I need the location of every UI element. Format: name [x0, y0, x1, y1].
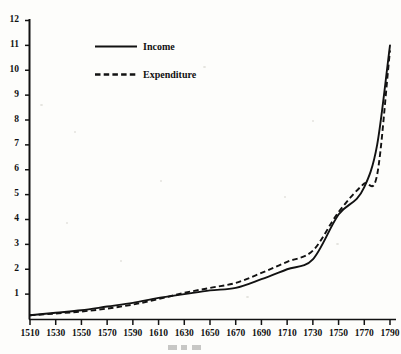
y-axis-tick-label: 11 — [3, 39, 19, 49]
x-axis-tick-label: 1790 — [375, 328, 401, 338]
y-axis-tick-label: 2 — [3, 263, 19, 273]
y-axis-tick-label: 3 — [3, 238, 19, 248]
y-axis-tick-label: 10 — [3, 64, 19, 74]
expenditure-line — [30, 50, 390, 315]
y-axis-tick-label: 6 — [3, 163, 19, 173]
axis-lines — [29, 19, 396, 320]
y-axis-tick-label: 7 — [3, 138, 19, 148]
y-axis-tick-label: 4 — [3, 213, 19, 223]
plot-canvas — [0, 0, 401, 354]
income-line — [30, 45, 390, 315]
y-axis-tick-label: 5 — [3, 188, 19, 198]
legend-label-expenditure: Expenditure — [143, 69, 196, 80]
y-axis-tick-label: 9 — [3, 89, 19, 99]
chart-figure: Income Expenditure 121110987654321 15101… — [0, 0, 401, 354]
y-axis-tick-label: 8 — [3, 114, 19, 124]
legend-label-income: Income — [143, 41, 175, 52]
y-axis-tick-label: 1 — [3, 288, 19, 298]
scan-edge-artifact — [168, 345, 212, 350]
y-axis-tick-label: 12 — [3, 14, 19, 24]
